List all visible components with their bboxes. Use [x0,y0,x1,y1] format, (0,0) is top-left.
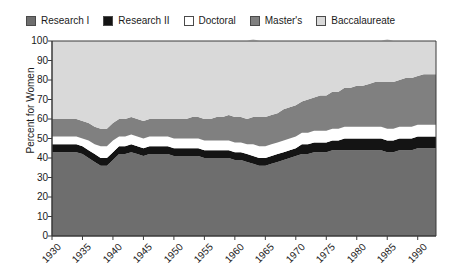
plot-area [0,0,454,274]
stacked-area-chart: Research IResearch IIDoctoralMaster'sBac… [0,0,454,274]
